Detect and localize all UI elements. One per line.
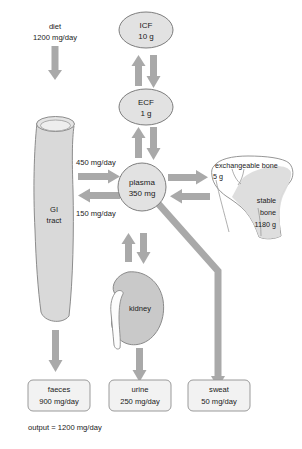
output-box-sweat[interactable]: sweat 50 mg/day: [188, 380, 250, 411]
diet-label-line1: diet: [49, 22, 62, 31]
ecf-to-plasma-arrow: [147, 127, 161, 160]
exchangeable-bone-label: exchangeable bone: [215, 161, 278, 170]
faeces-label: faeces: [48, 385, 71, 394]
sweat-arrow: [155, 200, 225, 388]
icf-to-ecf-arrow: [147, 55, 161, 88]
ecf-to-icf-arrow: [132, 55, 146, 86]
gi-tract-label-line2: tract: [47, 216, 63, 225]
stable-bone-value: 1180 g: [255, 220, 276, 229]
plasma-value: 350 mg: [129, 189, 156, 198]
absorption-flow-label: 450 mg/day: [76, 158, 116, 167]
icf-label: ICF: [140, 21, 153, 30]
calcium-balance-diagram: diet 1200 mg/day GI tract 450 mg/day 150…: [0, 0, 302, 449]
bone-to-plasma-arrow: [170, 189, 210, 204]
ecf-label: ECF: [138, 98, 154, 107]
faeces-arrow: [49, 330, 63, 372]
plasma-to-bone-arrow: [168, 170, 208, 185]
output-summary: output = 1200 mg/day: [28, 423, 102, 432]
plasma-to-kidney-arrow: [137, 233, 151, 264]
sweat-value: 50 mg/day: [201, 397, 237, 406]
sweat-label: sweat: [209, 385, 230, 394]
compartment-node-plasma[interactable]: plasma 350 mg: [118, 163, 166, 211]
plasma-to-ecf-arrow: [132, 127, 146, 158]
diet-label-line2: 1200 mg/day: [33, 33, 77, 42]
kidney-label: kidney: [129, 304, 151, 313]
faeces-value: 900 mg/day: [39, 397, 79, 406]
secretion-arrow: [78, 189, 120, 203]
output-box-faeces[interactable]: faeces 900 mg/day: [28, 380, 90, 411]
stable-bone-label-line2: bone: [260, 208, 276, 217]
absorption-arrow: [78, 170, 120, 184]
stable-bone-label-line1: stable: [257, 196, 276, 205]
gi-tract-label-line1: GI: [50, 205, 58, 214]
kidney-organ: kidney: [111, 272, 164, 349]
urine-value: 250 mg/day: [120, 397, 160, 406]
urine-label: urine: [132, 385, 149, 394]
diet-arrow: [48, 46, 62, 80]
icf-value: 10 g: [138, 32, 154, 41]
kidney-to-plasma-arrow: [122, 233, 136, 262]
compartment-node-ecf[interactable]: ECF 1 g: [119, 89, 173, 125]
plasma-label: plasma: [129, 178, 155, 187]
ecf-value: 1 g: [140, 109, 151, 118]
exchangeable-bone-value: 5 g: [213, 172, 223, 181]
urine-arrow: [133, 348, 147, 382]
output-box-urine[interactable]: urine 250 mg/day: [109, 380, 171, 411]
compartment-node-icf[interactable]: ICF 10 g: [119, 12, 173, 48]
secretion-flow-label: 150 mg/day: [76, 209, 116, 218]
